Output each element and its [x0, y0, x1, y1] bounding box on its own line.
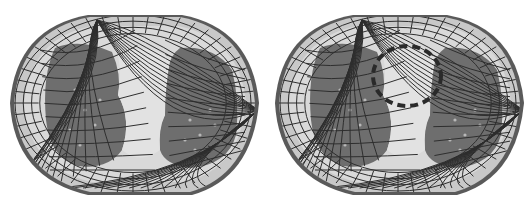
- vessel-spot: [198, 133, 201, 136]
- figure: [0, 0, 530, 205]
- vessel-spot: [188, 118, 191, 121]
- vessel-spot: [453, 118, 456, 121]
- cross-section-left: [0, 0, 265, 205]
- vessel-spot: [363, 98, 366, 101]
- vessel-spot: [93, 123, 96, 126]
- vessel-spot: [358, 123, 361, 126]
- panel-right: [265, 0, 530, 205]
- panel-left: [0, 0, 265, 205]
- vessel-spot: [463, 133, 466, 136]
- vessel-spot: [98, 98, 101, 101]
- cross-section-right: [265, 0, 530, 205]
